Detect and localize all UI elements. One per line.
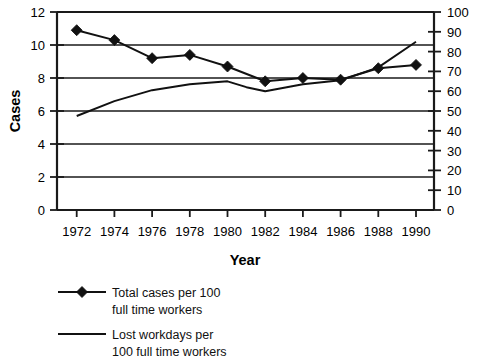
dual-axis-line-chart: 0 2 4 6 8 10 12 0 10 20 30 <box>0 0 489 361</box>
data-point-marker <box>184 49 195 60</box>
chart-legend: Total cases per 100 full time workers Lo… <box>58 286 227 359</box>
y-axis-left-labels: 0 2 4 6 8 10 12 <box>31 5 45 218</box>
x-tick-label: 1976 <box>138 224 167 239</box>
x-tick-label: 1984 <box>288 224 317 239</box>
data-point-marker <box>222 61 233 72</box>
y-tick-label: 2 <box>38 170 45 185</box>
series-total-cases-line <box>77 30 416 81</box>
y-axis-right-labels: 0 10 20 30 40 50 60 70 80 90 100 <box>447 5 469 218</box>
legend-item-total-cases: Total cases per 100 full time workers <box>58 286 220 317</box>
x-tick-label: 1972 <box>62 224 91 239</box>
chart-figure: 0 2 4 6 8 10 12 0 10 20 30 <box>0 0 489 361</box>
data-point-marker <box>335 74 346 85</box>
x-tick-label: 1980 <box>213 224 242 239</box>
y-tick-label: 6 <box>38 104 45 119</box>
y-tick-label: 12 <box>31 5 45 20</box>
legend-label-line1: Lost workdays per <box>112 328 213 342</box>
x-axis-title: Year <box>230 252 261 268</box>
x-tick-label: 1988 <box>364 224 393 239</box>
y2-tick-label: 70 <box>447 64 461 79</box>
data-point-marker <box>147 53 158 64</box>
y2-tick-label: 10 <box>447 183 461 198</box>
y2-tick-label: 0 <box>447 203 454 218</box>
legend-label-line2: full time workers <box>112 303 202 317</box>
data-point-marker <box>297 73 308 84</box>
y-tick-label: 10 <box>31 38 45 53</box>
x-tick-label: 1990 <box>402 224 431 239</box>
data-point-marker <box>411 59 422 70</box>
x-tick-label: 1978 <box>175 224 204 239</box>
x-axis-labels: 1972 1974 1976 1978 1980 1982 1984 1986 … <box>62 224 430 239</box>
y2-tick-label: 80 <box>447 45 461 60</box>
y2-tick-label: 100 <box>447 5 469 20</box>
y2-tick-label: 30 <box>447 144 461 159</box>
legend-label-line1: Total cases per 100 <box>112 286 220 300</box>
y2-tick-label: 60 <box>447 84 461 99</box>
legend-diamond-icon <box>77 287 88 298</box>
x-tick-label: 1986 <box>326 224 355 239</box>
data-point-marker <box>109 35 120 46</box>
legend-label-line2: 100 full time workers <box>112 345 227 359</box>
y2-tick-label: 20 <box>447 163 461 178</box>
data-point-marker <box>71 25 82 36</box>
legend-item-lost-workdays: Lost workdays per 100 full time workers <box>58 328 227 359</box>
y2-tick-label: 40 <box>447 124 461 139</box>
y-tick-label: 0 <box>38 203 45 218</box>
y-tick-label: 4 <box>38 137 45 152</box>
y-axis-title: Cases <box>7 90 23 133</box>
y2-tick-label: 90 <box>447 25 461 40</box>
y-tick-label: 8 <box>38 71 45 86</box>
x-tick-label: 1974 <box>100 224 129 239</box>
y2-tick-label: 50 <box>447 104 461 119</box>
series-lost-workdays-line <box>77 42 416 116</box>
x-tick-label: 1982 <box>251 224 280 239</box>
